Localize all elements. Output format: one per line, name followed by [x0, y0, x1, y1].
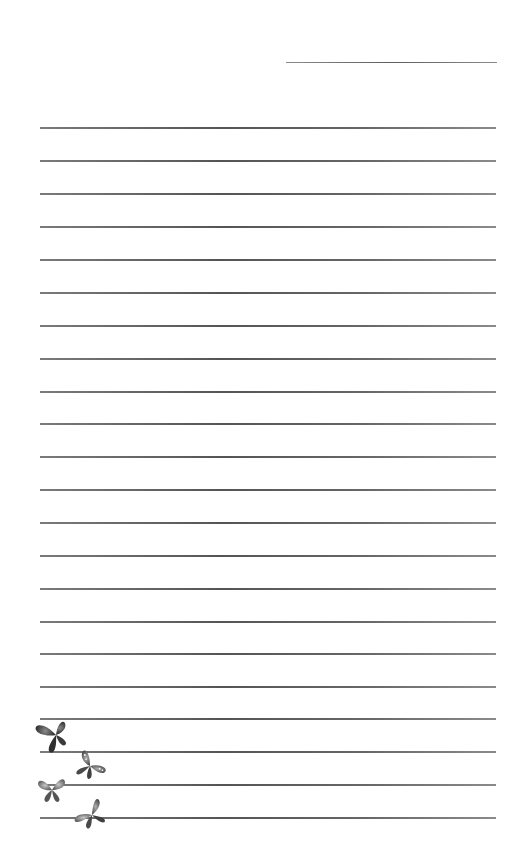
- ruled-line: [40, 193, 496, 195]
- ruled-line: [40, 423, 496, 425]
- ruled-line: [40, 555, 496, 557]
- butterfly-icon: [76, 750, 109, 782]
- butterfly-icon: [35, 715, 74, 755]
- ruled-line: [40, 489, 496, 491]
- ruled-line: [40, 127, 496, 129]
- date-line: [286, 62, 497, 63]
- ruled-line: [40, 358, 496, 360]
- ruled-line: [40, 259, 496, 261]
- ruled-line: [40, 522, 496, 524]
- butterfly-icon: [72, 798, 106, 830]
- ruled-line: [40, 391, 496, 393]
- lined-paper-page: [0, 0, 508, 855]
- butterfly-icon: [38, 779, 65, 802]
- ruled-line: [40, 292, 496, 294]
- ruled-line: [40, 653, 496, 655]
- ruled-line: [40, 325, 496, 327]
- butterfly-decoration: [34, 712, 114, 837]
- ruled-line: [40, 621, 496, 623]
- ruled-line: [40, 226, 496, 228]
- ruled-line: [40, 456, 496, 458]
- ruled-line: [40, 588, 496, 590]
- ruled-line: [40, 686, 496, 688]
- ruled-line: [40, 160, 496, 162]
